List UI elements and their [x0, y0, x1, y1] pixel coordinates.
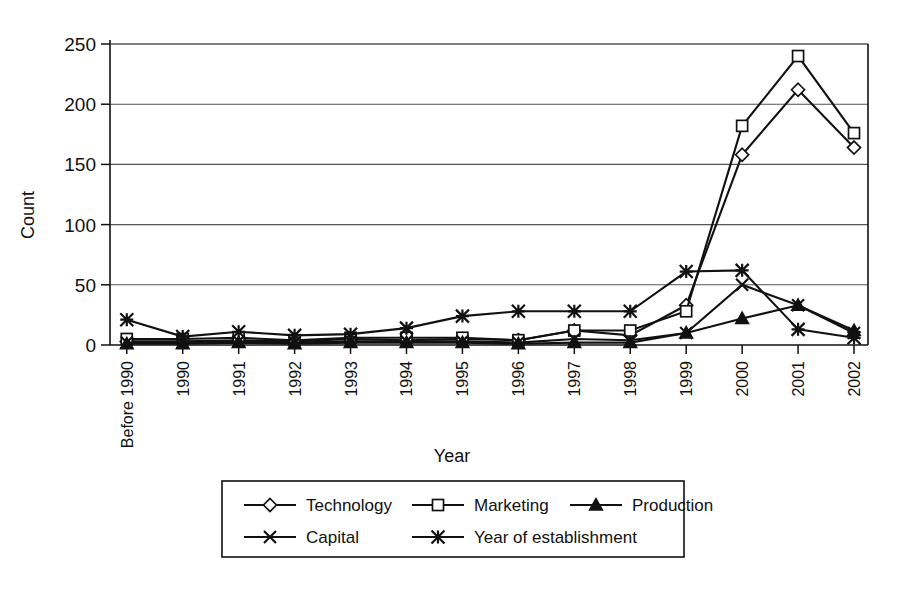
legend-item-label: Production [632, 496, 713, 515]
x-tick-label-1: 1990 [175, 361, 192, 397]
plot-frame [110, 44, 868, 345]
x-tick-label-2: 1991 [231, 361, 248, 397]
marker-star [344, 328, 357, 341]
series-year-of-establishment [120, 264, 860, 344]
x-tick-label-0: Before 1990 [119, 361, 136, 448]
x-tick-label-12: 2001 [790, 361, 807, 397]
line-chart: 050100150200250 Before 19901990199119921… [0, 0, 903, 592]
marker-star [120, 313, 133, 326]
y-tick-label-100: 100 [64, 215, 96, 236]
x-tick-label-3: 1992 [287, 361, 304, 397]
y-tick-label-200: 200 [64, 94, 96, 115]
x-tick-label-10: 1999 [678, 361, 695, 397]
x-tick-label-11: 2000 [734, 361, 751, 397]
x-tick-label-7: 1996 [510, 361, 527, 397]
marker-square [625, 325, 636, 336]
gridlines [110, 44, 868, 285]
marker-star [848, 331, 861, 344]
series-path [127, 56, 854, 340]
x-tick-label-6: 1995 [454, 361, 471, 397]
y-tick-label-150: 150 [64, 154, 96, 175]
y-tick-label-0: 0 [85, 335, 96, 356]
series-layer [120, 51, 860, 349]
legend-item-label: Year of establishment [474, 528, 637, 547]
marker-square [737, 120, 748, 131]
marker-star [792, 323, 805, 336]
marker-star [512, 305, 525, 318]
y-tick-label-50: 50 [75, 275, 96, 296]
marker-star [456, 310, 469, 323]
marker-star [680, 265, 693, 278]
legend: TechnologyMarketingProductionCapitalYear… [222, 481, 713, 557]
marker-square [433, 500, 444, 511]
x-tick-label-4: 1993 [343, 361, 360, 397]
series-marketing [121, 51, 859, 346]
x-tick-label-9: 1998 [622, 361, 639, 397]
y-axis-title: Count [18, 191, 38, 239]
x-tick-label-5: 1994 [398, 361, 415, 397]
x-axis-title: Year [434, 446, 470, 466]
legend-item-label: Marketing [474, 496, 549, 515]
chart-container: 050100150200250 Before 19901990199119921… [0, 0, 903, 592]
x-tick-label-13: 2002 [846, 361, 863, 397]
x-axis: Before 199019901991199219931994199519961… [110, 345, 868, 448]
marker-square [849, 128, 860, 139]
y-axis: 050100150200250 [64, 34, 110, 356]
marker-star [568, 305, 581, 318]
marker-star [288, 329, 301, 342]
marker-star [432, 531, 445, 544]
marker-square [793, 51, 804, 62]
marker-star [736, 264, 749, 277]
marker-square [681, 306, 692, 317]
marker-star [232, 325, 245, 338]
legend-item-label: Capital [306, 528, 359, 547]
series-technology [120, 83, 860, 348]
y-tick-label-250: 250 [64, 34, 96, 55]
marker-star [400, 322, 413, 335]
x-tick-label-8: 1997 [566, 361, 583, 397]
marker-star [624, 305, 637, 318]
marker-star [176, 330, 189, 343]
legend-item-label: Technology [306, 496, 393, 515]
